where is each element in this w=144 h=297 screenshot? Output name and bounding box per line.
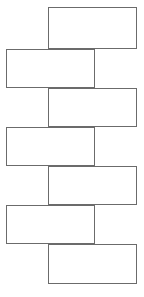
rectangle-6-label [7,206,94,243]
rectangle-5[interactable] [48,166,137,205]
rectangle-2[interactable] [6,49,95,88]
rectangle-1-label [49,8,136,48]
rectangle-7[interactable] [48,244,137,284]
rectangle-4-label [7,128,94,165]
rectangle-4[interactable] [6,127,95,166]
diagram-canvas [0,0,144,297]
rectangle-2-label [7,50,94,87]
rectangle-3[interactable] [48,88,137,127]
rectangle-1[interactable] [48,7,137,49]
rectangle-5-label [49,167,136,204]
rectangle-6[interactable] [6,205,95,244]
rectangle-7-label [49,245,136,283]
rectangle-3-label [49,89,136,126]
